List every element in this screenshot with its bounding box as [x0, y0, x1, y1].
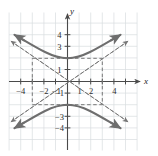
x-tick-label--4: −4	[16, 86, 26, 96]
y-tick-label-3: 3	[57, 42, 61, 52]
x-tick-label-1: 1	[77, 86, 81, 96]
x-axis-label: x	[143, 76, 148, 86]
y-tick-label--4: −4	[55, 123, 65, 133]
hyperbola-figure: −4 −2 −1 1 2 4 4 3 1 −1 −3 −4 x y	[0, 0, 158, 156]
y-axis-label: y	[69, 6, 74, 16]
y-tick-label--3: −3	[55, 112, 64, 122]
x-tick-label-2: 2	[89, 86, 93, 96]
x-tick-label--2: −2	[39, 86, 48, 96]
y-tick-label-1: 1	[57, 65, 61, 75]
hyperbola-plot-svg: −4 −2 −1 1 2 4 4 3 1 −1 −3 −4 x y	[0, 0, 158, 156]
y-tick-label--1: −1	[55, 88, 64, 98]
x-tick-label-4: 4	[112, 86, 117, 96]
